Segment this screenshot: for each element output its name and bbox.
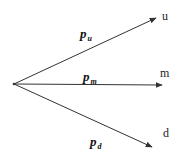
prob-label-down: pd <box>89 134 103 151</box>
node-label-up: u <box>162 9 168 23</box>
prob-label-middle: pm <box>82 69 97 86</box>
branch-arrow-middle <box>14 84 162 85</box>
origin-node <box>13 83 16 86</box>
prob-label-up: pu <box>79 26 93 43</box>
node-label-down: d <box>163 126 169 140</box>
trinomial-diagram: pu pm pd u m d <box>0 0 179 155</box>
node-label-middle: m <box>160 66 170 80</box>
branch-arrow-down <box>14 84 152 147</box>
